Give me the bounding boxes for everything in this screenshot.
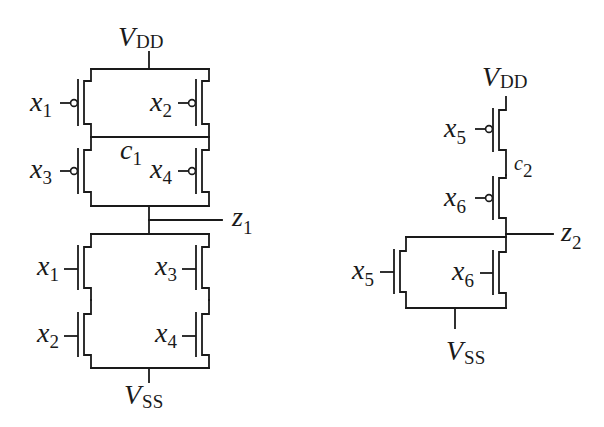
pull-down-network-2: x5 x6 (351, 234, 506, 308)
output-label-z1: z1 (231, 201, 252, 238)
inversion-bubble-icon (189, 100, 196, 107)
nmos-x5 (380, 237, 406, 308)
input-label-x3-nmos: x3 (154, 250, 177, 285)
node-label-c1: c1 (120, 134, 142, 169)
cmos-schematic-canvas: VDD (0, 0, 604, 427)
pmos-x2 (178, 69, 209, 137)
nmos-x6 (480, 237, 506, 308)
input-label-x1-pmos: x1 (29, 86, 52, 121)
pull-down-network-1: x1 x2 x3 x4 (36, 234, 209, 368)
vdd-label-1: VDD (118, 21, 164, 52)
node-label-c2: c2 (514, 152, 532, 181)
vss-label-2: VSS (446, 335, 485, 368)
input-label-x5-nmos: x5 (351, 254, 374, 290)
inversion-bubble-icon (71, 100, 78, 107)
pmos-x5 (475, 97, 506, 175)
pmos-x4 (178, 137, 209, 206)
inversion-bubble-icon (486, 126, 493, 133)
inversion-bubble-icon (71, 168, 78, 175)
output-label-z2: z2 (560, 216, 581, 253)
input-label-x6-pmos: x6 (443, 181, 466, 217)
vdd-label-2: VDD (482, 61, 528, 92)
pull-up-network-1: x1 x2 x3 x4 c1 (29, 69, 209, 206)
nmos-x2 (64, 300, 91, 368)
inversion-bubble-icon (486, 195, 493, 202)
input-label-x2-pmos: x2 (149, 86, 172, 121)
input-label-x6-nmos: x6 (451, 255, 474, 291)
pmos-x3 (60, 137, 91, 206)
circuit-1: VDD (29, 21, 252, 412)
pmos-x6 (475, 175, 506, 234)
inversion-bubble-icon (189, 168, 196, 175)
circuit-2: VDD x5 x6 c2 (351, 61, 581, 368)
input-label-x5-pmos: x5 (443, 112, 466, 148)
input-label-x4-pmos: x4 (149, 153, 172, 188)
input-label-x2-nmos: x2 (36, 317, 59, 352)
nmos-x1 (64, 234, 91, 300)
input-label-x3-pmos: x3 (29, 153, 52, 188)
nmos-x3 (182, 234, 209, 300)
pmos-x1 (60, 69, 91, 137)
nmos-x4 (182, 300, 209, 368)
input-label-x1-nmos: x1 (36, 250, 59, 285)
vss-label-1: VSS (124, 379, 163, 412)
pull-up-network-2: x5 x6 c2 (443, 97, 532, 234)
input-label-x4-nmos: x4 (154, 317, 177, 352)
